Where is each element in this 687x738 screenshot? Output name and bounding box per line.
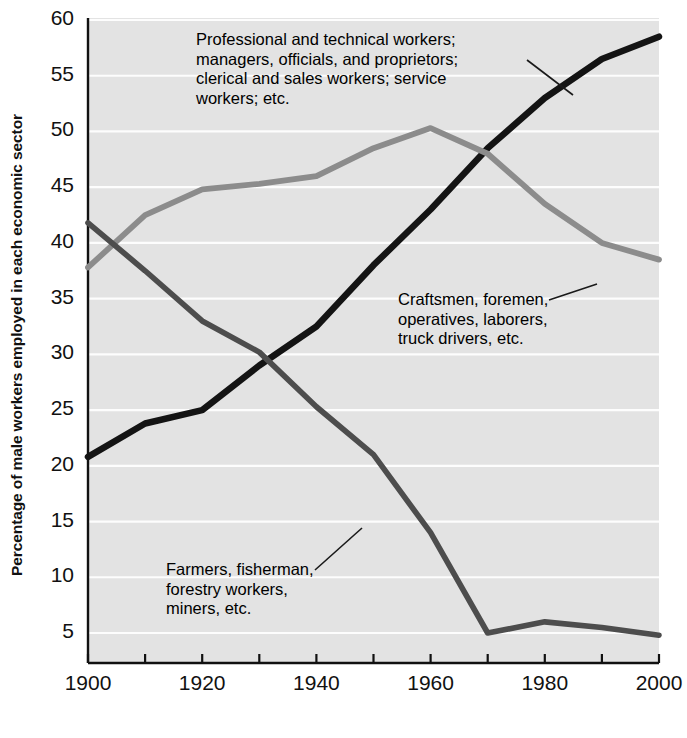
y-tick-label: 50 (22, 117, 74, 141)
annotation-craftsmen: Craftsmen, foremen, operatives, laborers… (398, 290, 628, 349)
x-tick-label: 1960 (391, 671, 471, 695)
y-tick-label: 55 (22, 62, 74, 86)
x-tick-label: 1980 (505, 671, 585, 695)
y-tick-label: 45 (22, 173, 74, 197)
y-tick-label: 30 (22, 340, 74, 364)
y-tick-label: 35 (22, 285, 74, 309)
y-tick-label: 20 (22, 452, 74, 476)
y-tick-label: 10 (22, 563, 74, 587)
annotation-farmers: Farmers, fisherman, forestry workers, mi… (166, 560, 396, 619)
y-tick-label: 40 (22, 229, 74, 253)
x-tick-label: 2000 (619, 671, 687, 695)
annotation-professional-workers: Professional and technical workers; mana… (196, 30, 526, 108)
y-tick-label: 15 (22, 508, 74, 532)
y-tick-label: 5 (22, 619, 74, 643)
x-tick-label: 1920 (162, 671, 242, 695)
x-tick-label: 1900 (48, 671, 128, 695)
x-tick-label: 1940 (276, 671, 356, 695)
y-tick-label: 60 (22, 6, 74, 30)
y-tick-label: 25 (22, 396, 74, 420)
